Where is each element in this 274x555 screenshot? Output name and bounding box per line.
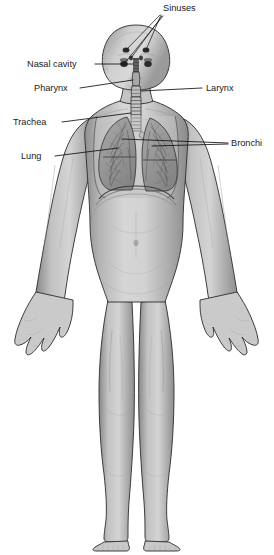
label-bronchi: Bronchi xyxy=(231,138,262,148)
maxillary-sinus-left xyxy=(144,61,152,67)
navel xyxy=(134,240,139,246)
label-trachea: Trachea xyxy=(13,117,47,127)
respiratory-system-figure: Sinuses Nasal cavity Pharynx Larynx Trac… xyxy=(0,0,274,555)
label-sinuses: Sinuses xyxy=(163,3,196,13)
label-nasal-cavity: Nasal cavity xyxy=(27,59,77,69)
ethmoid-sinus-left xyxy=(139,56,143,61)
pharynx xyxy=(132,72,140,86)
label-lung: Lung xyxy=(21,151,41,161)
label-pharynx: Pharynx xyxy=(34,83,68,93)
nasal-cavity xyxy=(133,58,139,72)
label-larynx: Larynx xyxy=(206,83,234,93)
larynx xyxy=(131,86,141,97)
